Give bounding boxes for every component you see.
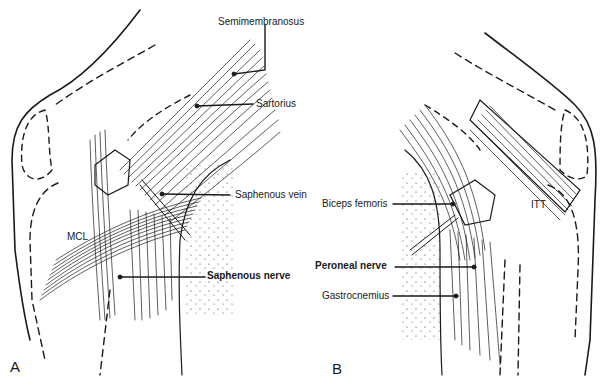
label-saphenous-nerve: Saphenous nerve (207, 271, 290, 281)
label-saphenous-vein: Saphenous vein (235, 190, 307, 200)
label-itt: ITT (531, 200, 546, 210)
label-semimembranosus: Semimembranosus (218, 17, 304, 27)
panel-label-a: A (10, 359, 20, 374)
label-biceps-femoris: Biceps femoris (322, 199, 388, 209)
label-gastrocnemius: Gastrocnemius (322, 291, 389, 301)
label-sartorius: Sartorius (256, 99, 296, 109)
label-peroneal-nerve: Peroneal nerve (315, 261, 387, 271)
label-mcl: MCL (67, 232, 88, 242)
panel-b-drawing (393, 33, 596, 375)
panel-label-b: B (332, 361, 342, 376)
